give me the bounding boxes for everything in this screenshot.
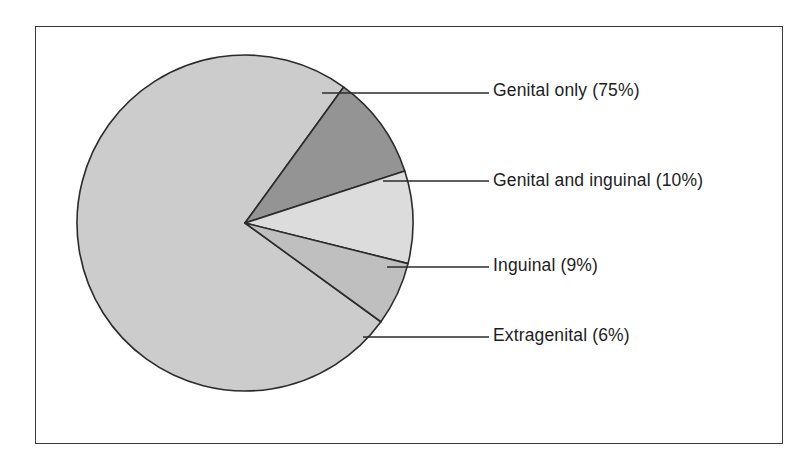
slice-label-inguinal: Inguinal (9%) — [493, 255, 598, 276]
slice-label-genital-only: Genital only (75%) — [493, 80, 640, 101]
slice-label-extragenital: Extragenital (6%) — [493, 325, 630, 346]
pie-chart-figure: Genital only (75%) Genital and inguinal … — [0, 0, 808, 460]
pie-chart-canvas — [0, 0, 808, 460]
slice-label-genital-and-inguinal: Genital and inguinal (10%) — [493, 170, 703, 191]
